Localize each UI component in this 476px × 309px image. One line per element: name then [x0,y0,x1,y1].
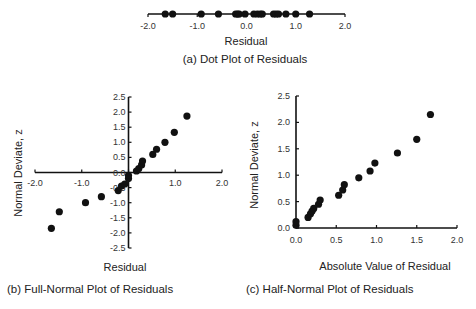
x-tick-label: 0.0 [290,235,303,245]
data-point [292,10,299,17]
data-point [125,172,132,179]
plot-c-caption: (c) Half-Normal Plot of Residuals [246,283,414,295]
data-point [161,139,168,146]
x-tick-label: 2.0 [216,178,229,188]
x-tick-label: -2.0 [27,178,43,188]
y-tick-label: 1.5 [113,122,126,132]
y-tick-label: -1.5 [110,213,126,223]
x-tick-label: 1.0 [169,178,182,188]
data-point [241,10,248,17]
data-point [259,10,266,17]
x-tick-label: 1.0 [370,235,383,245]
y-tick-label: 2.5 [113,92,126,102]
y-tick-label: 1.5 [277,144,290,154]
x-tick-label: 1.5 [410,235,423,245]
plot-c-xlabel: Absolute Value of Residual [319,260,450,272]
data-point [282,10,289,17]
data-point [48,225,55,232]
data-point [98,193,105,200]
full-normal-plot: -2.0-1.01.02.02.52.01.51.00.50.0-0.5-1.0… [27,92,228,253]
x-tick-label: -1.0 [189,21,205,31]
plot-b-ylabel: Normal Deviate, z [12,129,24,216]
y-tick-label: -1.0 [110,198,126,208]
data-point [169,10,176,17]
y-tick-label: 2.0 [277,117,290,127]
x-tick-label: 2.0 [339,21,352,31]
y-tick-label: 2.5 [277,91,290,101]
plot-a-xlabel: Residual [225,35,268,47]
data-point [394,149,401,156]
x-tick-label: 1.0 [289,21,302,31]
y-tick-label: 0.5 [113,152,126,162]
y-tick-label: 0.5 [277,197,290,207]
plot-b-xlabel: Residual [104,261,147,273]
data-point [341,181,348,188]
y-tick-label: 1.0 [277,170,290,180]
data-point [366,167,373,174]
y-tick-label: -2.0 [110,228,126,238]
data-point [427,111,434,118]
half-normal-plot: 0.00.51.01.52.02.52.01.51.00.50.0 [277,91,463,245]
data-point [153,146,160,153]
data-point [317,196,324,203]
data-point [139,157,146,164]
residual-plots-figure: -2.0-1.00.01.02.0 -2.0-1.01.02.02.52.01.… [0,0,476,309]
data-point [292,218,299,225]
y-tick-label: -2.5 [110,243,126,253]
plot-a-caption: (a) Dot Plot of Residuals [183,53,308,65]
x-tick-label: 2.0 [451,235,464,245]
dot-plot-residuals: -2.0-1.00.01.02.0 [140,10,351,31]
data-point [215,10,222,17]
x-tick-label: -2.0 [140,21,156,31]
data-point [162,10,169,17]
y-tick-label: 1.0 [113,137,126,147]
x-tick-label: 0.5 [330,235,343,245]
plot-c-ylabel: Normal Deviate, z [248,121,260,208]
data-point [275,10,282,17]
data-point [183,112,190,119]
x-tick-label: 0.0 [240,21,253,31]
data-point [82,199,89,206]
data-point [371,159,378,166]
data-point [171,129,178,136]
data-point [56,208,63,215]
data-point [413,136,420,143]
plot-b-caption: (b) Full-Normal Plot of Residuals [7,283,173,295]
data-point [198,10,205,17]
x-tick-label: -1.0 [74,178,90,188]
y-tick-label: 0.0 [277,223,290,233]
data-point [306,10,313,17]
y-tick-label: 2.0 [113,107,126,117]
data-point [355,174,362,181]
y-tick-label: 0.0 [113,168,126,178]
